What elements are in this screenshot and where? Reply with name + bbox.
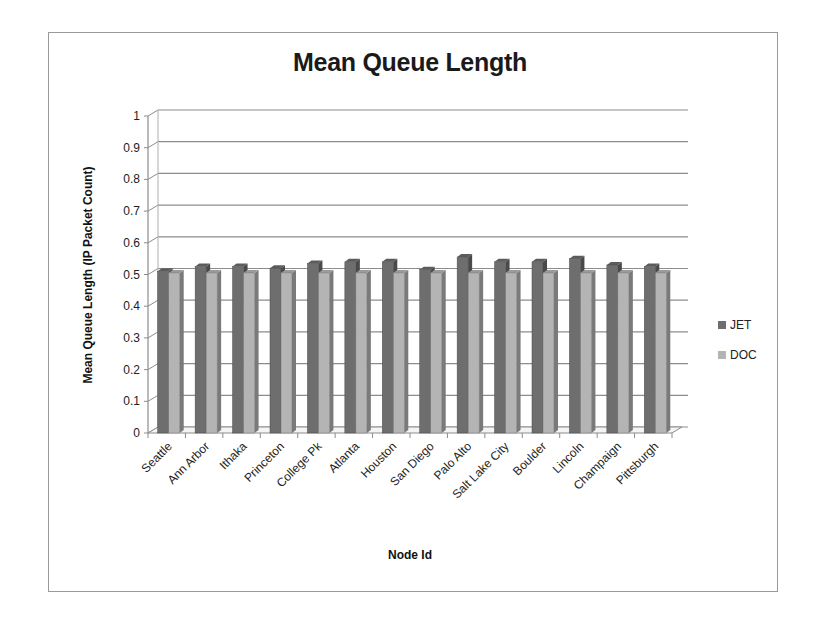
bar-jet xyxy=(233,267,244,433)
y-tick-label: 0.1 xyxy=(123,394,140,408)
x-tick-label: Atlanta xyxy=(326,439,363,476)
y-tick-label: 0.9 xyxy=(123,141,140,155)
bar-side xyxy=(554,270,558,433)
legend-swatch-doc xyxy=(718,351,726,359)
bar-doc xyxy=(281,273,292,433)
bar-side xyxy=(479,270,483,433)
bar-side xyxy=(367,270,371,433)
floor xyxy=(148,427,682,433)
bar-jet xyxy=(345,262,356,433)
bar-side xyxy=(404,270,408,433)
y-tick-label: 0.5 xyxy=(123,268,140,282)
y-tick-label: 0.8 xyxy=(123,172,140,186)
y-tick-label: 0.6 xyxy=(123,236,140,250)
plot-area: 00.10.20.30.40.50.60.70.80.91SeattleAnn … xyxy=(0,0,820,625)
bar-side xyxy=(217,270,221,433)
bar-doc xyxy=(318,273,329,433)
y-tick-label: 1 xyxy=(133,109,140,123)
gridline-depth xyxy=(148,142,158,148)
bar-doc xyxy=(206,273,217,433)
bar-doc xyxy=(580,273,591,433)
legend-item-jet: JET xyxy=(718,318,751,332)
bar-doc xyxy=(356,273,367,433)
bar-jet xyxy=(569,259,580,433)
bar-jet xyxy=(457,257,468,433)
gridline-depth xyxy=(148,237,158,243)
bar-jet xyxy=(607,265,618,433)
gridline-depth xyxy=(148,332,158,338)
bar-doc xyxy=(618,273,629,433)
bar-side xyxy=(180,270,184,433)
bar-side xyxy=(629,270,633,433)
bar-doc xyxy=(169,273,180,433)
y-tick-label: 0.4 xyxy=(123,299,140,313)
gridline-depth xyxy=(148,173,158,179)
x-tick-label: Boulder xyxy=(510,439,549,478)
bar-jet xyxy=(644,267,655,433)
bar-side xyxy=(442,270,446,433)
bar-side xyxy=(517,270,521,433)
bar-doc xyxy=(393,273,404,433)
bar-doc xyxy=(543,273,554,433)
gridline-depth xyxy=(148,269,158,275)
y-tick-label: 0.7 xyxy=(123,204,140,218)
bar-doc xyxy=(244,273,255,433)
bar-side xyxy=(666,270,670,433)
gridline-depth xyxy=(148,364,158,370)
bar-jet xyxy=(195,267,206,433)
x-tick-label: Seattle xyxy=(139,439,176,476)
x-tick-label: Lincoln xyxy=(550,439,587,476)
y-tick-label: 0.3 xyxy=(123,331,140,345)
bar-jet xyxy=(420,270,431,433)
bar-doc xyxy=(655,273,666,433)
bar-side xyxy=(591,270,595,433)
gridline-depth xyxy=(148,110,158,116)
bar-side xyxy=(329,270,333,433)
legend-label-doc: DOC xyxy=(730,348,757,362)
legend-swatch-jet xyxy=(718,321,726,329)
legend-label-jet: JET xyxy=(730,318,751,332)
bar-jet xyxy=(532,262,543,433)
bar-side xyxy=(255,270,259,433)
legend-item-doc: DOC xyxy=(718,348,757,362)
y-tick-label: 0.2 xyxy=(123,363,140,377)
bar-jet xyxy=(158,271,169,433)
bar-side xyxy=(292,270,296,433)
bar-jet xyxy=(495,262,506,433)
bar-doc xyxy=(506,273,517,433)
bar-doc xyxy=(468,273,479,433)
gridline-depth xyxy=(148,300,158,306)
x-tick-label: Ithaka xyxy=(217,439,250,472)
bar-jet xyxy=(382,262,393,433)
bar-doc xyxy=(431,273,442,433)
bar-jet xyxy=(307,263,318,433)
gridline-depth xyxy=(148,205,158,211)
gridline-depth xyxy=(148,395,158,401)
y-tick-label: 0 xyxy=(133,426,140,440)
bar-jet xyxy=(270,268,281,433)
